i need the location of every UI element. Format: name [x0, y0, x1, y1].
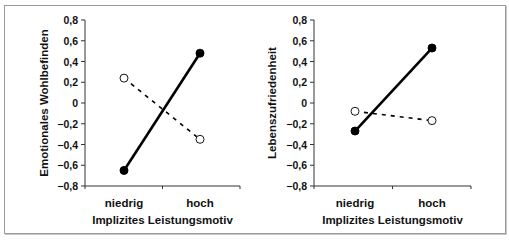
open-circle-marker — [120, 74, 128, 82]
y-tick-label: 0,6 — [63, 35, 78, 47]
chart-canvas: 0,80,60,40,20−0,2−0,4−0,6−0,8niedrighoch… — [0, 0, 509, 240]
y-tick-label: 0,4 — [63, 56, 78, 68]
y-axis-title: Emotionales Wohlbefinden — [38, 29, 50, 176]
y-tick-label: 0,2 — [292, 76, 307, 88]
x-category-label: niedrig — [336, 197, 374, 209]
y-tick-label: −0,4 — [286, 139, 307, 151]
y-tick-label: 0,2 — [63, 76, 78, 88]
y-tick-label: −0,8 — [286, 180, 307, 192]
x-axis-title: Implizites Leistungsmotiv — [322, 214, 463, 226]
series-line — [124, 53, 200, 170]
chart-2: 0,80,60,40,20−0,2−0,4−0,6−0,8niedrighoch… — [266, 14, 471, 226]
series-solid-filled-markers — [120, 49, 204, 174]
open-circle-marker — [428, 117, 436, 125]
x-category-label: niedrig — [105, 197, 143, 209]
filled-circle-marker — [120, 166, 128, 174]
y-tick-label: −0,6 — [286, 159, 307, 171]
y-tick-label: 0,6 — [292, 35, 307, 47]
y-axis-title: Lebenszufriedenheit — [266, 47, 278, 159]
y-tick-label: 0 — [72, 97, 78, 109]
series-line — [124, 78, 200, 139]
y-tick-label: −0,2 — [57, 118, 78, 130]
y-tick-label: 0,4 — [292, 56, 307, 68]
y-tick-label: −0,8 — [57, 180, 78, 192]
series-solid-filled-markers — [351, 44, 436, 135]
y-tick-label: −0,6 — [57, 159, 78, 171]
open-circle-marker — [351, 107, 359, 115]
series-dashed-open-markers — [120, 74, 204, 143]
y-tick-label: −0,4 — [57, 139, 78, 151]
x-category-label: hoch — [418, 197, 445, 209]
filled-circle-marker — [428, 44, 436, 52]
x-category-label: hoch — [186, 197, 213, 209]
y-tick-label: 0,8 — [63, 14, 78, 26]
y-tick-label: −0,2 — [286, 118, 307, 130]
y-tick-label: 0,8 — [292, 14, 307, 26]
filled-circle-marker — [196, 49, 204, 57]
x-axis-title: Implizites Leistungsmotiv — [92, 214, 233, 226]
y-tick-label: 0 — [301, 97, 307, 109]
filled-circle-marker — [351, 127, 359, 135]
chart-1: 0,80,60,40,20−0,2−0,4−0,6−0,8niedrighoch… — [38, 14, 240, 226]
open-circle-marker — [196, 135, 204, 143]
